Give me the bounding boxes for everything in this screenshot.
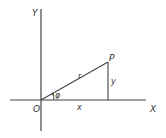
y-length-label: y [110,77,116,86]
point-label: P [109,53,115,63]
angle-label: φ [55,91,61,100]
coordinate-diagram: Y X O P r y x φ [0,0,166,138]
origin-label: O [33,104,40,114]
x-axis-label: X [149,104,157,114]
x-length-label: x [76,103,82,112]
y-axis-label: Y [32,8,39,18]
